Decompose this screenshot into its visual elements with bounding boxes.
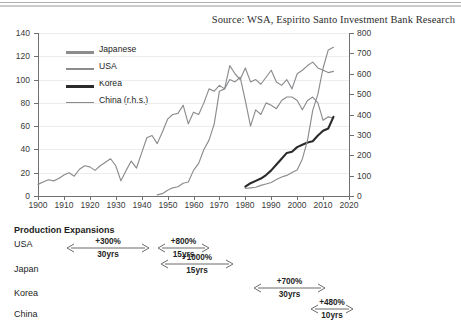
series-line-japanese	[157, 62, 333, 195]
chart-series-layer	[0, 0, 461, 332]
series-line-korea	[245, 117, 333, 187]
series-line-usa	[38, 77, 333, 184]
